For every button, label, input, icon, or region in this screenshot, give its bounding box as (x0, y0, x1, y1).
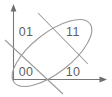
constellation-figure: 01 11 00 10 (0, 0, 112, 97)
quadrant-label-upper-right: 11 (66, 25, 80, 39)
y-axis-arrow-icon (11, 4, 17, 12)
figure-canvas: 01 11 00 10 (0, 0, 112, 97)
quadrant-label-lower-left: 00 (19, 65, 34, 79)
diagonal-down-right-line (38, 13, 88, 64)
x-axis-arrow-icon (100, 77, 108, 83)
quadrant-label-upper-left: 01 (19, 25, 34, 39)
quadrant-label-lower-right: 10 (66, 65, 81, 79)
